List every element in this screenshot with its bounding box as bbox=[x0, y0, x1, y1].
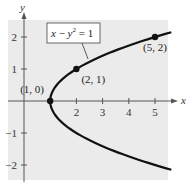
parabola-chart: x y 234521−1−2 x − y2 = 1 (1, 0)(2, 1)(5… bbox=[0, 0, 189, 187]
y-tick-label: 2 bbox=[12, 31, 18, 43]
equation-label: x − y2 = 1 bbox=[50, 26, 93, 39]
point-marker bbox=[47, 98, 53, 104]
x-tick-label: 3 bbox=[100, 106, 106, 118]
point-marker bbox=[73, 66, 79, 72]
x-tick-label: 5 bbox=[152, 106, 158, 118]
point-label: (5, 2) bbox=[143, 41, 167, 54]
y-tick-label: −2 bbox=[5, 159, 17, 171]
x-tick-label: 2 bbox=[74, 106, 80, 118]
x-axis-label: x bbox=[180, 94, 186, 106]
y-axis-arrow-icon bbox=[22, 12, 27, 19]
y-axis-label: y bbox=[19, 1, 25, 13]
y-tick-label: 1 bbox=[12, 63, 18, 75]
point-label: (2, 1) bbox=[81, 73, 105, 86]
point-marker bbox=[152, 34, 158, 40]
x-tick-label: 4 bbox=[126, 106, 132, 118]
point-label: (1, 0) bbox=[20, 83, 44, 96]
x-axis-arrow-icon bbox=[171, 99, 178, 104]
y-tick-label: −1 bbox=[5, 127, 17, 139]
